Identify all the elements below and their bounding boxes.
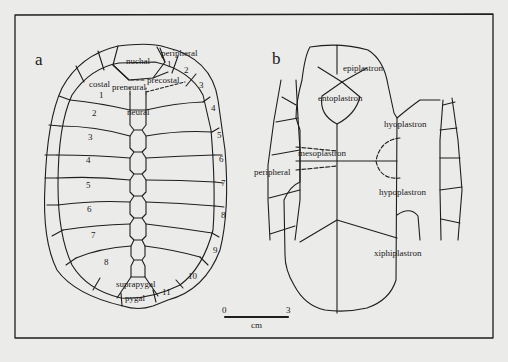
- label-hyoplastron: hyoplastron: [384, 119, 427, 129]
- label-hypoplastron: hypoplastron: [379, 187, 426, 197]
- label-peripheral-a: peripheral: [161, 48, 198, 58]
- costal-number-3: 3: [88, 132, 93, 142]
- left-bridge-outer: [268, 80, 281, 240]
- peripheral-number-1: 1: [167, 59, 172, 69]
- scale-min: 0: [222, 305, 227, 315]
- peripheral-number-5: 5: [217, 130, 222, 140]
- peripheral-number-2: 2: [184, 65, 189, 75]
- panel-b-letter: b: [272, 49, 281, 68]
- label-mesoplastron: mesoplastron: [298, 148, 346, 158]
- right-bridge-outer: [452, 98, 462, 240]
- label-entoplastron: entoplastron: [318, 93, 363, 103]
- costal-number-6: 6: [87, 204, 92, 214]
- carapace-inner: [58, 62, 214, 298]
- peripheral-number-8: 8: [221, 210, 226, 220]
- label-preneural: preneural: [112, 82, 146, 92]
- label-xiphiplastron: xiphiplastron: [374, 248, 422, 258]
- costal-number-8: 8: [104, 257, 109, 267]
- turtle-shell-diagram: a nuchal peripheral precostal preneural …: [0, 0, 508, 362]
- peripheral-number-9: 9: [213, 245, 218, 255]
- scale-unit: cm: [251, 320, 262, 330]
- peripheral-number-10: 10: [188, 271, 198, 281]
- label-nuchal: nuchal: [126, 56, 150, 66]
- panel-a-letter: a: [35, 50, 43, 69]
- label-suprapygal: suprapygal: [116, 279, 156, 289]
- peripheral-number-4: 4: [211, 103, 216, 113]
- costal-number-1: 1: [99, 90, 104, 100]
- scale-max: 3: [286, 305, 291, 315]
- left-bridge-inner: [295, 80, 300, 240]
- plastron-outline: [284, 45, 397, 311]
- label-epiplastron: epiplastron: [343, 63, 383, 73]
- label-peripheral-b: peripheral: [254, 167, 291, 177]
- peripheral-number-3: 3: [199, 80, 204, 90]
- costal-number-2: 2: [92, 108, 97, 118]
- label-precostal: precostal: [147, 75, 180, 85]
- costal-number-7: 7: [91, 230, 96, 240]
- neural-column: [130, 94, 146, 277]
- label-neural: neural: [127, 107, 150, 117]
- entoplastron: [322, 82, 360, 124]
- peripheral-number-7: 7: [221, 178, 226, 188]
- peripheral-number-11: 11: [162, 287, 171, 297]
- peripheral-number-6: 6: [219, 154, 224, 164]
- costal-number-4: 4: [86, 155, 91, 165]
- costal-number-5: 5: [86, 180, 91, 190]
- label-costal: costal: [89, 79, 110, 89]
- label-pygal: pygal: [125, 293, 145, 303]
